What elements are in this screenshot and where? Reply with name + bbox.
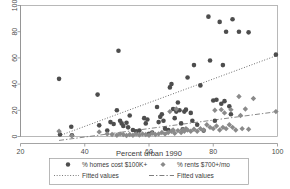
y-tick-label: 80 — [11, 28, 18, 36]
point-rents — [251, 96, 256, 101]
point-homes-cost — [217, 20, 222, 25]
point-homes-cost — [176, 100, 181, 105]
fitted-line-homes — [59, 55, 277, 136]
fitted-line-rents — [59, 112, 277, 141]
point-homes-cost — [161, 118, 166, 123]
point-homes-cost — [208, 58, 213, 63]
point-homes-cost — [206, 14, 211, 19]
point-homes-cost — [195, 122, 200, 127]
legend-content: % homes cost $100K+% rents $700+/moFitte… — [54, 161, 230, 179]
point-homes-cost — [126, 125, 131, 130]
point-homes-cost — [229, 112, 234, 117]
point-homes-cost — [115, 108, 120, 113]
scatter-plot-figure: 020406080100 20406080100 Percent urban 1… — [0, 0, 290, 189]
point-rents — [105, 131, 110, 136]
y-tick-label: 0 — [11, 134, 18, 138]
point-rents — [219, 107, 224, 112]
point-rents — [246, 127, 251, 132]
point-homes-cost — [190, 118, 195, 123]
point-rents — [222, 110, 227, 115]
point-homes-cost — [172, 116, 177, 121]
data-points — [56, 14, 278, 138]
y-tick-label: 40 — [11, 80, 18, 88]
point-homes-cost — [237, 29, 242, 34]
y-tick-label: 20 — [11, 106, 18, 114]
point-homes-cost — [224, 29, 229, 34]
point-rents — [97, 129, 102, 134]
point-homes-cost — [184, 107, 189, 112]
point-homes-cost — [222, 99, 227, 104]
point-homes-cost — [116, 48, 121, 53]
point-rents — [236, 94, 241, 99]
chart-legend: % homes cost $100K+% rents $700+/moFitte… — [50, 159, 249, 185]
point-homes-cost — [274, 52, 279, 57]
point-homes-cost — [192, 63, 197, 68]
point-homes-cost — [95, 92, 100, 97]
x-tick-label: 80 — [209, 148, 217, 155]
legend-label-fitted-rents: Fitted values — [177, 172, 215, 179]
x-tick-label: 40 — [81, 148, 89, 155]
point-homes-cost — [145, 117, 150, 122]
point-homes-cost — [121, 124, 126, 129]
legend-diamond-marker-icon — [160, 162, 165, 167]
point-homes-cost — [198, 83, 203, 88]
point-rents — [239, 126, 244, 131]
legend-label-homes-cost: % homes cost $100K+ — [82, 161, 147, 168]
legend-circle-marker-icon — [66, 162, 70, 166]
point-homes-cost — [156, 120, 161, 125]
point-homes-cost — [221, 63, 226, 68]
point-homes-cost — [179, 121, 184, 126]
x-tick-label: 100 — [272, 148, 284, 155]
point-rents — [212, 108, 217, 113]
x-axis-title: Percent urban 1990 — [116, 149, 182, 158]
point-homes-cost — [188, 111, 193, 116]
chart-canvas: 020406080100 20406080100 Percent urban 1… — [0, 0, 290, 189]
y-axis: 020406080100 — [11, 0, 20, 138]
point-homes-cost — [160, 112, 165, 117]
point-homes-cost — [213, 118, 218, 123]
point-homes-cost — [230, 17, 235, 22]
point-homes-cost — [246, 30, 251, 35]
point-homes-cost — [111, 122, 116, 127]
point-homes-cost — [127, 113, 132, 118]
point-rents — [238, 113, 243, 118]
legend-label-fitted-homes: Fitted values — [82, 172, 120, 179]
point-homes-cost — [143, 121, 148, 126]
point-homes-cost — [169, 82, 174, 87]
legend-label-rents: % rents $700+/mo — [177, 161, 230, 168]
point-homes-cost — [214, 98, 219, 103]
point-homes-cost — [185, 75, 190, 80]
point-homes-cost — [137, 128, 142, 133]
point-homes-cost — [57, 77, 62, 82]
point-homes-cost — [97, 123, 102, 128]
x-tick-label: 20 — [17, 148, 25, 155]
point-homes-cost — [155, 105, 160, 110]
point-homes-cost — [124, 120, 129, 125]
point-homes-cost — [69, 124, 74, 129]
y-tick-label: 100 — [11, 0, 18, 11]
y-tick-label: 60 — [11, 54, 18, 62]
point-rents — [243, 106, 248, 111]
